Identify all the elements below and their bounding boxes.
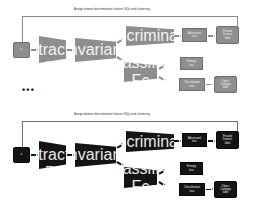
object-category-label-node[interactable]: Object Category label [214, 181, 237, 198]
domain-discriminator-sub: Fᴅ [141, 151, 160, 169]
adversarial-loss-node[interactable]: Adversarial loss [182, 133, 207, 147]
input-label: xᵢ [21, 48, 23, 51]
domain-invariant-feature-label: Domain-invariant feature [65, 23, 125, 77]
feature-extractor-node[interactable]: feature extractor Fₑ [39, 36, 66, 63]
pipeline-row-bottom: Assign domain discriminative feature Df(… [0, 106, 261, 213]
feature-extractor-node[interactable]: feature extractor Fₑ [39, 141, 66, 169]
arrow-classifier-to-clsloss [159, 76, 166, 81]
pseudo-domain-label-node[interactable]: Pseudo Domain label [216, 131, 239, 149]
pseudo-domain-label-text: Pseudo Domain label [222, 30, 233, 39]
arrow-split-lower [117, 56, 124, 61]
feature-extractor-sub: Fₑ [45, 164, 61, 182]
domain-discriminator-node[interactable]: Domain Discriminator Fᴅ [126, 131, 174, 152]
arrow-classifier-to-entropy [159, 64, 166, 69]
adversarial-loss-node[interactable]: Adversarial loss [182, 28, 207, 42]
row-bottom-caption: Assign domain discriminative feature Df(… [74, 113, 150, 116]
domain-discriminator-node[interactable]: Domain Discriminator Fᴅ [126, 26, 174, 46]
entropy-loss-label: Entropy loss [186, 60, 197, 66]
classifier-sub: Fᴄ [132, 72, 150, 90]
classifier-node[interactable]: Classifier Fᴄ [124, 167, 157, 188]
arrow-discriminator-to-advloss [174, 35, 181, 38]
feedback-line-horizontal [22, 121, 237, 122]
classification-loss-label: Classification loss [183, 81, 201, 87]
arrow-clsloss-to-objectlabel [206, 83, 213, 86]
arrow-classifier-to-clsloss [159, 181, 166, 186]
arrow-classifier-to-entropy [159, 169, 166, 174]
arrow-advloss-to-pseudolabel [208, 140, 215, 143]
object-category-label-node[interactable]: Object Category label [214, 76, 237, 93]
domain-invariant-feature-node[interactable]: Domain-invariant feature [75, 38, 116, 62]
repetition-ellipsis: ••• [22, 86, 35, 95]
classification-loss-label: Classification loss [183, 186, 201, 192]
entropy-loss-label: Entropy loss [186, 165, 197, 171]
domain-discriminator-sub: Fᴅ [141, 45, 160, 63]
feature-extractor-label: feature extractor [21, 23, 83, 59]
feedback-line-vertical-left [22, 121, 23, 151]
arrow-encoder-to-bottleneck [67, 154, 74, 157]
adversarial-loss-label: Adversarial loss [187, 137, 202, 143]
entropy-loss-node[interactable]: Entropy loss [180, 162, 203, 175]
object-category-label-text: Object Category label [219, 80, 232, 89]
pseudo-domain-label-text: Pseudo Domain label [222, 135, 233, 144]
domain-invariant-feature-label: Domain-invariant feature [65, 128, 125, 182]
object-category-label-text: Object Category label [219, 185, 232, 194]
arrow-advloss-to-pseudolabel [208, 35, 215, 38]
domain-invariant-feature-node[interactable]: Domain-invariant feature [75, 143, 116, 167]
feedback-line-vertical-left [22, 16, 23, 42]
classification-loss-node[interactable]: Classification loss [179, 78, 205, 91]
input-node[interactable]: xᵢ [13, 147, 30, 163]
entropy-loss-node[interactable]: Entropy loss [180, 57, 203, 70]
pseudo-domain-label-node[interactable]: Pseudo Domain label [216, 26, 239, 44]
classifier-node[interactable]: Classifier Fᴄ [124, 62, 157, 82]
arrow-encoder-to-bottleneck [67, 49, 74, 52]
arrow-input-to-encoder [31, 49, 38, 52]
arrow-discriminator-to-advloss [174, 140, 181, 143]
feature-extractor-label: feature extractor [21, 128, 83, 164]
feature-extractor-sub: Fₑ [45, 59, 61, 77]
arrow-split-upper [117, 143, 124, 148]
input-node[interactable]: xᵢ [13, 42, 30, 58]
arrow-split-lower [117, 161, 124, 166]
row-top-caption: Assign domain discriminative feature Df(… [74, 8, 150, 11]
diagram-canvas: Assign domain discriminative feature Df(… [0, 0, 261, 213]
feedback-line-horizontal [22, 16, 237, 17]
arrow-input-to-encoder [31, 154, 38, 157]
arrow-clsloss-to-objectlabel [206, 188, 213, 191]
arrow-split-upper [117, 38, 124, 43]
adversarial-loss-label: Adversarial loss [187, 32, 202, 38]
classifier-sub: Fᴄ [132, 178, 150, 196]
classification-loss-node[interactable]: Classification loss [179, 183, 205, 196]
pipeline-row-top: Assign domain discriminative feature Df(… [0, 0, 261, 106]
input-label: xᵢ [21, 153, 23, 156]
